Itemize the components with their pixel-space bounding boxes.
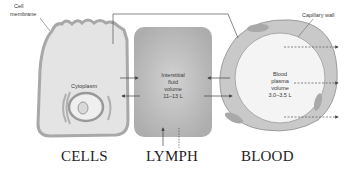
interstitial-label-1: Interstitial <box>161 72 185 78</box>
cell-membrane-label-line2: membrane <box>10 11 36 17</box>
plasma-label-3: volume <box>271 85 289 91</box>
cytoplasm-label: Cytoplasm <box>71 83 97 89</box>
caption-lymph: LYMPH <box>146 148 198 165</box>
caption-cells: CELLS <box>61 148 108 165</box>
cell-membrane-pointer <box>40 18 50 31</box>
caption-blood: BLOOD <box>241 148 294 165</box>
cell-membrane-label-line1: Cell <box>14 3 23 9</box>
plasma-label-4: 3.0–3.5 L <box>269 92 292 98</box>
interstitial-label-2: fluid <box>168 79 178 85</box>
interstitial-label-4: 11–13 L <box>163 93 182 99</box>
cell-shape <box>38 20 128 136</box>
capillary-wall-label: Capillary wall <box>302 12 334 18</box>
plasma-label-1: Blood <box>273 71 287 77</box>
interstitial-label-3: volume <box>164 86 182 92</box>
plasma-label-2: plasma <box>271 78 290 84</box>
